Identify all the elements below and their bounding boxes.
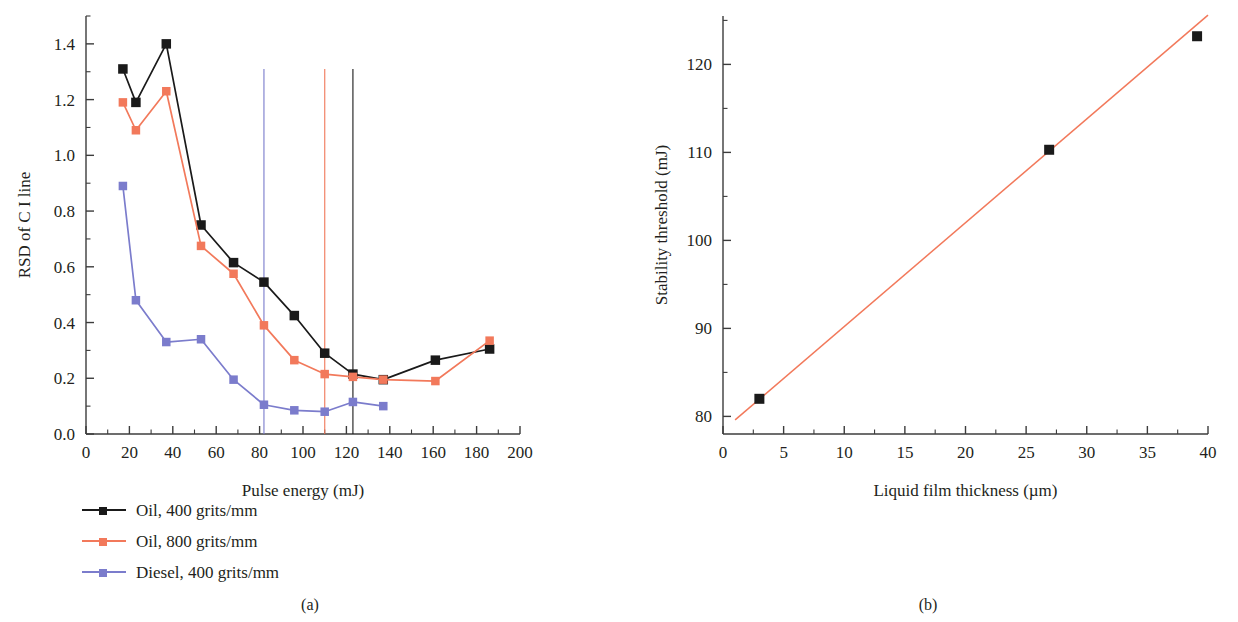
data-point-marker [162, 39, 172, 49]
data-point-marker [754, 394, 764, 404]
x-tick-label: 20 [957, 443, 974, 462]
data-point-marker [260, 400, 269, 409]
x-tick-label: 200 [507, 443, 533, 462]
data-point-marker [379, 402, 388, 411]
y-tick-label: 80 [695, 407, 712, 426]
panel-b-plot: 05101520253035408090100110120Liquid film… [618, 0, 1238, 500]
x-tick-label: 160 [420, 443, 446, 462]
data-point-marker [132, 296, 141, 305]
x-tick-label: 40 [164, 443, 181, 462]
legend-key-oil-800 [82, 535, 126, 547]
y-tick-label: 0.6 [54, 258, 75, 277]
y-axis-title: RSD of C I line [15, 172, 34, 279]
x-tick-label: 25 [1018, 443, 1035, 462]
legend-item-diesel-400: Diesel, 400 grits/mm [82, 560, 279, 584]
x-tick-label: 30 [1078, 443, 1095, 462]
series-line [123, 44, 490, 380]
x-tick-label: 15 [896, 443, 913, 462]
data-point-marker [431, 355, 441, 365]
panel-a-caption: (a) [0, 596, 620, 614]
data-point-marker [259, 277, 269, 287]
data-point-marker [349, 373, 358, 382]
legend-label-diesel-400: Diesel, 400 grits/mm [136, 564, 279, 581]
x-tick-label: 180 [464, 443, 490, 462]
data-point-marker [162, 338, 171, 347]
figure-container: 0204060801001201401601802000.00.20.40.60… [0, 0, 1238, 622]
legend-label-oil-800: Oil, 800 grits/mm [136, 533, 257, 550]
panel-b: 05101520253035408090100110120Liquid film… [618, 0, 1238, 622]
x-tick-label: 40 [1200, 443, 1217, 462]
x-tick-label: 100 [290, 443, 316, 462]
data-point-marker [290, 356, 299, 365]
data-point-marker [1192, 31, 1202, 41]
data-point-marker [131, 98, 141, 108]
y-tick-label: 0.8 [54, 202, 75, 221]
data-point-marker [132, 126, 141, 134]
panel-a-legend: Oil, 400 grits/mm Oil, 800 grits/mm Dies… [82, 498, 279, 584]
data-point-marker [485, 344, 495, 354]
data-point-marker [229, 270, 238, 279]
data-point-marker [320, 348, 330, 358]
data-point-marker [229, 258, 239, 268]
legend-item-oil-800: Oil, 800 grits/mm [82, 529, 279, 553]
data-point-marker [1044, 145, 1054, 155]
series-line [123, 186, 383, 412]
data-point-marker [431, 377, 440, 386]
x-tick-label: 0 [82, 443, 91, 462]
y-tick-label: 100 [687, 231, 713, 250]
y-tick-label: 0.4 [54, 314, 76, 333]
data-point-marker [119, 98, 128, 107]
panel-b-caption: (b) [618, 596, 1238, 614]
x-axis-title: Liquid film thickness (µm) [873, 481, 1057, 500]
fit-line [735, 15, 1208, 420]
x-tick-label: 35 [1139, 443, 1156, 462]
x-tick-label: 80 [251, 443, 268, 462]
y-tick-label: 110 [687, 143, 712, 162]
series-line [123, 91, 490, 381]
data-point-marker [485, 336, 494, 345]
x-tick-label: 60 [208, 443, 225, 462]
data-point-marker [119, 182, 128, 191]
y-axis-title: Stability threshold (mJ) [652, 145, 671, 306]
x-tick-label: 5 [779, 443, 788, 462]
data-point-marker [229, 375, 238, 384]
panel-a: 0204060801001201401601802000.00.20.40.60… [0, 0, 620, 622]
y-tick-label: 0.2 [54, 369, 75, 388]
data-point-marker [197, 242, 206, 251]
data-point-marker [290, 406, 299, 415]
x-tick-label: 20 [121, 443, 138, 462]
x-tick-label: 0 [719, 443, 728, 462]
data-point-marker [260, 321, 269, 330]
x-tick-label: 10 [836, 443, 853, 462]
y-tick-label: 1.0 [54, 146, 75, 165]
legend-key-diesel-400 [82, 566, 126, 578]
data-point-marker [320, 370, 329, 379]
legend-key-oil-400 [82, 504, 126, 516]
data-point-marker [162, 87, 171, 96]
data-point-marker [290, 311, 300, 321]
data-point-marker [118, 64, 128, 74]
data-point-marker [197, 335, 206, 344]
data-point-marker [320, 407, 329, 416]
y-tick-label: 1.4 [54, 35, 76, 54]
y-tick-label: 120 [687, 55, 713, 74]
data-point-marker [349, 398, 358, 407]
x-tick-label: 140 [377, 443, 403, 462]
x-tick-label: 120 [334, 443, 360, 462]
y-tick-label: 0.0 [54, 425, 75, 444]
legend-label-oil-400: Oil, 400 grits/mm [136, 502, 257, 519]
y-tick-label: 1.2 [54, 91, 75, 110]
legend-item-oil-400: Oil, 400 grits/mm [82, 498, 279, 522]
y-tick-label: 90 [695, 319, 712, 338]
panel-a-plot: 0204060801001201401601802000.00.20.40.60… [0, 0, 620, 500]
data-point-marker [379, 375, 388, 384]
